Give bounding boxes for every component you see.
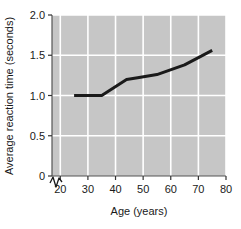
y-tick-label: 1.0 [30, 90, 45, 102]
reaction-time-chart: 00.51.01.52.0 20304050607080 Age (years)… [0, 0, 241, 229]
y-tick-label: 1.5 [30, 49, 45, 61]
x-tick-label: 40 [109, 183, 121, 195]
y-tick-label: 0 [39, 170, 45, 182]
y-axis-title: Average reaction time (seconds) [3, 17, 15, 175]
x-tick-label: 70 [192, 183, 204, 195]
x-tick-label: 50 [137, 183, 149, 195]
x-axis-title: Age (years) [111, 205, 168, 217]
x-tick-label: 80 [220, 183, 232, 195]
x-tick-label: 30 [82, 183, 94, 195]
y-tick-label: 0.5 [30, 130, 45, 142]
y-tick-label: 2.0 [30, 9, 45, 21]
x-tick-label: 60 [165, 183, 177, 195]
chart-svg: 00.51.01.52.0 20304050607080 Age (years)… [0, 0, 241, 229]
